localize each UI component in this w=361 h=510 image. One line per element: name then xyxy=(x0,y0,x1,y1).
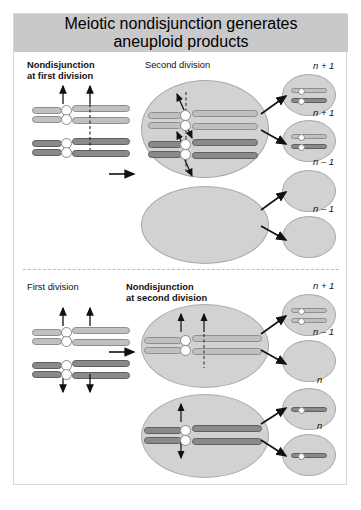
panel-nondisjunction-first-division: Nondisjunction at first division Second … xyxy=(14,52,348,270)
second-division-cell-empty xyxy=(141,186,269,264)
product-cell-bottom-4 xyxy=(282,434,336,476)
panel-bottom-left-header: First division xyxy=(27,282,79,293)
second-division-cell-dark-normal xyxy=(141,394,269,478)
panel-bottom-right-header: Nondisjunction at second division xyxy=(126,282,207,304)
product-cell-top-4 xyxy=(282,216,336,258)
panel-top-right-header: Second division xyxy=(145,60,210,71)
ploidy-label-top-2: n + 1 xyxy=(313,107,334,118)
ploidy-label-bottom-3: n xyxy=(317,374,322,385)
ploidy-label-bottom-4: n xyxy=(317,420,322,431)
second-division-cell-light-nondisjoined xyxy=(141,304,269,388)
panel-nondisjunction-second-division: First division Nondisjunction at second … xyxy=(14,272,348,485)
second-division-cell-nondisjoined xyxy=(141,80,269,178)
ploidy-label-bottom-1: n + 1 xyxy=(313,280,334,291)
ploidy-label-top-1: n + 1 xyxy=(313,60,334,71)
panel-top-left-header: Nondisjunction at first division xyxy=(27,60,95,82)
page-title: Meiotic nondisjunction generates aneuplo… xyxy=(64,15,297,51)
product-cell-bottom-2 xyxy=(282,340,336,382)
figure-frame: Meiotic nondisjunction generates aneuplo… xyxy=(13,13,347,485)
product-cell-bottom-3 xyxy=(282,388,336,430)
ploidy-label-top-3: n – 1 xyxy=(313,156,334,167)
title-line-2: aneuploid products xyxy=(64,33,297,51)
figure-title-bar: Meiotic nondisjunction generates aneuplo… xyxy=(14,14,348,52)
title-line-1: Meiotic nondisjunction generates xyxy=(64,15,297,33)
ploidy-label-bottom-2: n – 1 xyxy=(313,326,334,337)
ploidy-label-top-4: n – 1 xyxy=(313,203,334,214)
